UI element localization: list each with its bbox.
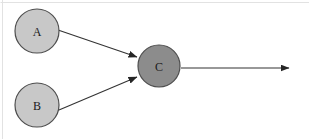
node-group: A B C: [15, 9, 180, 127]
diagram-svg: A B C: [0, 0, 309, 139]
node-c-label: C: [155, 60, 163, 74]
node-a-label: A: [33, 25, 42, 39]
diagram-canvas: A B C: [0, 0, 309, 139]
node-a[interactable]: A: [15, 9, 59, 53]
edge-a-to-c[interactable]: [58, 30, 137, 57]
node-b-label: B: [33, 99, 41, 113]
edge-b-to-c[interactable]: [59, 77, 137, 110]
node-c[interactable]: C: [138, 45, 180, 87]
node-b[interactable]: B: [15, 83, 59, 127]
